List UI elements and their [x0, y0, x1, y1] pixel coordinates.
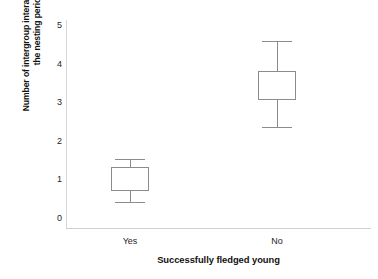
y-tick-label-4: 4 — [44, 60, 62, 69]
y-tick-label-0: 0 — [44, 214, 62, 223]
x-axis-title: Successfully fledged young — [66, 254, 371, 265]
chart-figure: Number of intergroup interactions during… — [0, 0, 378, 279]
whisker-cap-lower — [115, 202, 145, 203]
whisker-upper — [130, 159, 131, 167]
y-axis-line — [66, 20, 67, 229]
y-axis-title: Number of intergroup interactions during… — [21, 0, 43, 135]
x-axis-line — [66, 228, 371, 229]
y-tick-label-2: 2 — [44, 137, 62, 146]
y-tick-label-1: 1 — [44, 175, 62, 184]
whisker-cap-upper — [115, 159, 145, 160]
y-tick-label-5: 5 — [44, 21, 62, 30]
y-tick-label-3: 3 — [44, 98, 62, 107]
whisker-lower — [277, 100, 278, 127]
whisker-cap-upper — [262, 41, 292, 42]
whisker-upper — [277, 41, 278, 71]
box-iqr — [111, 167, 149, 191]
x-tick-label-no: No — [237, 236, 317, 246]
x-tick-label-yes: Yes — [90, 236, 170, 246]
y-axis-title-line1: Number of intergroup interactions during — [21, 0, 32, 135]
box-iqr — [258, 71, 296, 100]
whisker-lower — [130, 191, 131, 202]
y-axis-title-line2: the nesting period — [32, 0, 43, 135]
whisker-cap-lower — [262, 127, 292, 128]
